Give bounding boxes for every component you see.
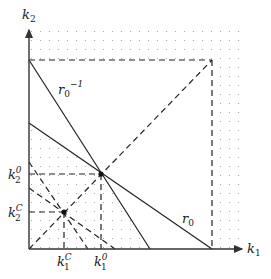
k2-C-tick-label: k2C: [8, 203, 23, 223]
k2-0-tick-label: k20: [8, 165, 22, 185]
k1-0-tick-label: k10: [94, 252, 108, 272]
dotted-inner-region: [29, 123, 150, 249]
best-response-diagram: k2 k1 r0−1 r0 k20 k2C k1C k10: [0, 0, 271, 279]
dotted-right-band: [212, 60, 243, 249]
point-kC: [61, 209, 66, 214]
k1-C-tick-label: k1C: [57, 252, 72, 272]
dotted-top-band: [29, 30, 243, 60]
point-k0: [98, 171, 103, 176]
r0-inverse-label: r0−1: [58, 79, 83, 99]
r0-label: r0: [182, 211, 194, 228]
x-axis-label: k1: [247, 241, 261, 258]
y-axis-label: k2: [22, 7, 36, 24]
